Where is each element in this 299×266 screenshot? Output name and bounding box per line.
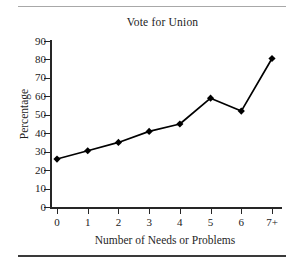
y-tick-label: 30 bbox=[35, 146, 46, 157]
series-marker bbox=[53, 155, 60, 162]
x-tick-label: 6 bbox=[228, 217, 254, 228]
x-tick-label: 5 bbox=[198, 217, 224, 228]
y-tick-label: 0 bbox=[41, 202, 47, 213]
x-tick-mark bbox=[88, 208, 89, 214]
y-tick-label: 60 bbox=[35, 91, 46, 102]
x-tick-mark bbox=[211, 208, 212, 214]
x-tick-label: 2 bbox=[105, 217, 131, 228]
series-marker bbox=[268, 55, 275, 62]
x-axis-title: Number of Needs or Problems bbox=[40, 234, 290, 246]
y-axis-line bbox=[50, 40, 52, 208]
x-tick-label: 0 bbox=[44, 217, 70, 228]
y-tick-label: 10 bbox=[35, 183, 46, 194]
x-tick-label: 4 bbox=[167, 217, 193, 228]
series-marker bbox=[146, 128, 153, 135]
y-tick-label: 70 bbox=[35, 72, 46, 83]
x-tick-label: 3 bbox=[136, 217, 162, 228]
x-tick-mark bbox=[241, 208, 242, 214]
y-tick-label: 80 bbox=[35, 54, 46, 65]
series-marker bbox=[238, 107, 245, 114]
series-marker bbox=[84, 147, 91, 154]
y-axis-title: Percentage bbox=[18, 54, 30, 174]
plot-area: 0102030405060708090 01234567+ Percentage… bbox=[0, 0, 299, 266]
x-tick-mark bbox=[118, 208, 119, 214]
y-tick-label: 20 bbox=[35, 165, 46, 176]
series-marker bbox=[115, 139, 122, 146]
y-tick-label: 40 bbox=[35, 128, 46, 139]
x-tick-mark bbox=[149, 208, 150, 214]
series-line bbox=[57, 59, 272, 160]
series-marker bbox=[207, 95, 214, 102]
figure-container: Vote for Union 0102030405060708090 01234… bbox=[0, 0, 299, 266]
x-tick-mark bbox=[180, 208, 181, 214]
x-tick-mark bbox=[272, 208, 273, 214]
series-marker bbox=[176, 120, 183, 127]
figure-bottom-rule bbox=[18, 255, 286, 257]
y-tick-label: 90 bbox=[35, 36, 46, 47]
x-tick-mark bbox=[57, 208, 58, 214]
x-axis-line bbox=[50, 207, 282, 209]
x-tick-label: 1 bbox=[75, 217, 101, 228]
y-tick-label: 50 bbox=[35, 109, 46, 120]
x-tick-label: 7+ bbox=[259, 217, 285, 228]
